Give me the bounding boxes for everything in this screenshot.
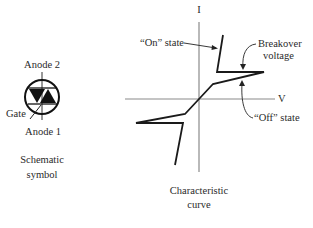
off-state-arrowhead bbox=[239, 80, 245, 86]
characteristic-caption-line2: curve bbox=[187, 199, 210, 211]
on-state-label: “On” state bbox=[140, 37, 184, 49]
schematic-caption-line2: symbol bbox=[27, 169, 58, 181]
iv-curve bbox=[136, 35, 264, 165]
off-state-label: “Off” state bbox=[254, 112, 300, 124]
on-state-arrow bbox=[184, 43, 216, 48]
anode2-label: Anode 2 bbox=[24, 59, 60, 71]
breakover-arrowhead bbox=[240, 64, 246, 70]
characteristic-curve bbox=[136, 35, 264, 165]
breakover-label-line1: Breakover bbox=[258, 38, 302, 50]
breakover-arrow bbox=[243, 44, 256, 67]
off-state-arrow bbox=[242, 84, 253, 118]
on-state-arrowhead bbox=[212, 45, 219, 50]
triac-schematic-symbol bbox=[25, 72, 59, 120]
characteristic-caption-line1: Characteristic bbox=[170, 185, 228, 197]
gate-lead bbox=[30, 105, 41, 119]
v-axis-label: V bbox=[278, 93, 286, 105]
anode1-label: Anode 1 bbox=[25, 126, 61, 138]
schematic-caption-line1: Schematic bbox=[20, 154, 64, 166]
gate-label: Gate bbox=[6, 108, 26, 120]
breakover-label-line2: voltage bbox=[263, 50, 294, 62]
i-axis-label: I bbox=[197, 4, 201, 16]
